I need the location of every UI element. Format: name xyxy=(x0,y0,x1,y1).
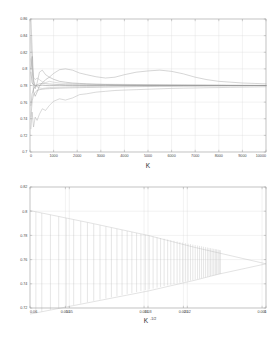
y-tick-label: 0.7 xyxy=(22,150,27,154)
x-tick-label: 0 xyxy=(264,310,266,314)
x-tick-label: 3000 xyxy=(97,154,105,158)
y-tick-label: 0.72 xyxy=(20,306,27,310)
top-plot-area xyxy=(30,19,266,152)
y-tick-label: 0.78 xyxy=(20,234,27,238)
trace-line xyxy=(31,59,266,89)
x-tick-label: 0.02 xyxy=(184,310,191,314)
figure-page: 0.70.720.740.760.780.80.820.840.86010002… xyxy=(0,0,280,343)
x-tick-label: 5000 xyxy=(144,154,152,158)
x-axis-title-exponent: -1/2 xyxy=(150,317,156,321)
trace-line xyxy=(31,37,266,85)
y-tick-label: 0.82 xyxy=(20,51,27,55)
top-chart-svg: 0.70.720.740.760.780.80.820.840.86010002… xyxy=(0,0,280,180)
bottom-plot-area xyxy=(30,187,266,314)
y-tick-label: 0.82 xyxy=(20,185,27,189)
x-tick-label: 6000 xyxy=(167,154,175,158)
y-tick-label: 0.74 xyxy=(20,282,27,286)
x-tick-label: 1000 xyxy=(49,154,57,158)
x-tick-label: 0.03 xyxy=(144,310,151,314)
y-tick-label: 0.74 xyxy=(20,117,27,121)
top-convergence-chart: 0.70.720.740.760.780.80.820.840.86010002… xyxy=(0,0,280,180)
y-tick-label: 0.78 xyxy=(20,84,27,88)
x-axis-title: K xyxy=(146,162,151,169)
x-axis-title: K-1/2 xyxy=(144,317,156,324)
x-tick-label: 4000 xyxy=(120,154,128,158)
bottom-funnel-chart: 0.720.740.760.780.80.820.060.0510.050.03… xyxy=(0,180,280,343)
y-tick-label: 0.76 xyxy=(20,258,27,262)
trace-line xyxy=(31,86,266,117)
x-tick-label: 0.05 xyxy=(66,310,73,314)
x-tick-label: 0 xyxy=(30,154,32,158)
trace-line xyxy=(31,19,266,88)
x-tick-label: 2000 xyxy=(73,154,81,158)
x-tick-label: 9000 xyxy=(238,154,246,158)
trace-line xyxy=(31,72,266,86)
y-tick-label: 0.76 xyxy=(20,101,27,105)
x-tick-label: 10000 xyxy=(256,154,266,158)
trace-line xyxy=(31,87,266,129)
x-tick-label: 8000 xyxy=(215,154,223,158)
y-tick-label: 0.8 xyxy=(22,67,27,71)
x-tick-label: 7000 xyxy=(191,154,199,158)
x-tick-label: 0.06 xyxy=(30,310,37,314)
bottom-chart-svg: 0.720.740.760.780.80.820.060.0510.050.03… xyxy=(0,180,280,343)
x-axis-title-base: K xyxy=(144,317,149,324)
trace-line xyxy=(31,56,266,96)
y-tick-label: 0.86 xyxy=(20,17,27,21)
y-tick-label: 0.84 xyxy=(20,34,27,38)
y-tick-label: 0.8 xyxy=(22,210,27,214)
y-tick-label: 0.72 xyxy=(20,134,27,138)
